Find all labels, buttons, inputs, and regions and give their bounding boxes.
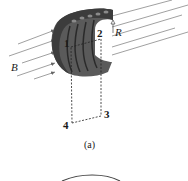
label-radius: R [115, 27, 122, 38]
bottom-arc [62, 175, 120, 181]
label-point-3: 3 [104, 109, 110, 120]
label-point-2: 2 [97, 28, 103, 39]
toroid-diagram [0, 0, 188, 181]
label-point-1: 1 [64, 38, 70, 49]
field-lines-right [112, 0, 188, 55]
label-point-4: 4 [63, 120, 69, 131]
label-field-b: B [11, 62, 18, 73]
toroid-coil [52, 8, 113, 76]
figure-caption: (a) [84, 139, 95, 150]
